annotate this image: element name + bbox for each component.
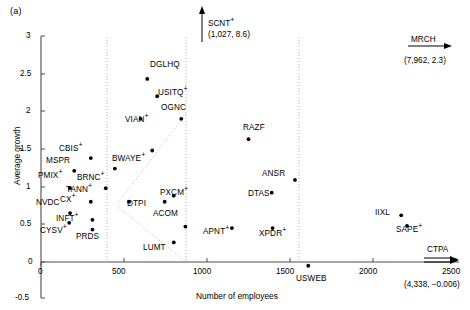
xticklabel-2000: 2000 (359, 268, 377, 276)
data-point-brnc (113, 167, 117, 171)
scnt-arrow-head (199, 6, 205, 14)
yticklabel-1: 1 (26, 183, 31, 191)
point-label-text: CX (60, 195, 72, 204)
point-label-text: INFT (56, 214, 75, 223)
plus-icon: + (225, 224, 229, 231)
xticklabel-500: 500 (112, 268, 126, 276)
point-label-dtpi: DTPI (127, 200, 146, 208)
y-axis (41, 36, 45, 298)
point-label-razf: RAZF (243, 124, 265, 132)
annotation-ctpa-label: CTPA (427, 245, 448, 254)
point-label-apnt: APNT+ (203, 228, 229, 236)
ctpa-arrow-head (450, 256, 459, 264)
mrch-arrow-head (444, 43, 452, 49)
annotation-scnt-plus-icon: + (230, 16, 234, 23)
x-axis-title: Number of employees (196, 291, 278, 301)
data-point-iixl (399, 213, 403, 217)
point-label-nvdc: NVDC (36, 199, 60, 207)
data-point-apnt (230, 226, 234, 230)
data-point-ansr (293, 178, 297, 182)
yticklabel-3: 3 (26, 32, 31, 40)
point-label-text: APNT (203, 227, 225, 236)
plus-icon: + (79, 141, 83, 148)
data-point-acom (184, 225, 188, 229)
data-point-inft (91, 218, 95, 222)
annotation-mrch-coords: (7,962, 2.3) (404, 56, 446, 65)
point-label-text: PXCM (160, 188, 184, 197)
data-point-razf (247, 137, 251, 141)
plus-icon: + (88, 182, 92, 189)
plus-icon: + (63, 223, 67, 230)
data-point-dtpi (163, 200, 167, 204)
point-label-text: OGNC (161, 103, 186, 112)
point-label-ansr: ANSR (262, 170, 285, 178)
point-label-text: TANN (66, 185, 88, 194)
point-label-prds: PRDS (76, 233, 99, 241)
annotation-ctpa-coords-box: (4,338, −0.006) (404, 279, 460, 290)
point-label-text: USWEB (296, 274, 327, 283)
point-label-dglhq: DGLHQ (150, 61, 180, 69)
plus-icon: + (145, 112, 149, 119)
point-label-text: NVDC (36, 198, 60, 207)
data-point-bwaye (150, 149, 154, 153)
point-label-text: BWAYE (112, 154, 141, 163)
annotation-scnt: SCNT+ (1,027, 8.6) (208, 18, 250, 40)
point-label-cbis: CBIS+ (59, 145, 83, 153)
point-label-text: DGLHQ (150, 60, 180, 69)
xticklabel-1000: 1000 (193, 268, 211, 276)
data-point-dtas (270, 191, 274, 195)
point-label-text: BRNC (77, 173, 101, 182)
annotation-ctpa: CTPA (427, 244, 448, 255)
point-label-text: DTAS (248, 189, 270, 198)
plus-icon: + (184, 85, 188, 92)
data-point-mspr (72, 169, 76, 173)
point-label-text: CYSV (40, 226, 63, 235)
scatter-plot-canvas (0, 0, 470, 310)
x-axis (41, 258, 459, 266)
annotation-scnt-label: SCNT (208, 19, 230, 28)
data-point-tann (104, 186, 108, 190)
data-point-cx (89, 200, 93, 204)
point-label-text: USITQ (158, 88, 184, 97)
point-label-text: LUMT (143, 243, 166, 252)
point-label-text: PMIX (38, 171, 58, 180)
point-label-text: MSPR (46, 156, 70, 165)
point-label-sape: SAPE+ (396, 226, 422, 234)
plus-icon: + (101, 170, 105, 177)
point-label-dtas: DTAS (248, 190, 270, 198)
point-label-text: IIXL (375, 208, 390, 217)
point-label-pmix: PMIX+ (38, 172, 63, 180)
point-label-text: DTPI (127, 199, 146, 208)
annotation-mrch-label: MRCH (411, 35, 436, 44)
annotation-scnt-coords: (1,027, 8.6) (208, 30, 250, 39)
data-point-ognc (179, 117, 183, 121)
point-label-usitq: USITQ+ (158, 89, 188, 97)
point-label-tann: TANN+ (66, 186, 92, 194)
data-point-cbis (89, 156, 93, 160)
yticklabel-0.5: 0.5 (20, 220, 31, 228)
annotation-mrch: MRCH (411, 34, 436, 45)
point-label-pxcm: PXCM+ (160, 189, 188, 197)
point-label-cx: CX+ (60, 196, 76, 204)
data-point-prds (91, 228, 95, 232)
point-label-text: VIAN (125, 115, 145, 124)
plus-icon: + (141, 151, 145, 158)
point-label-lumt: LUMT (143, 244, 166, 252)
xticklabel-0: 0 (38, 268, 43, 276)
yticklabel-2: 2 (26, 107, 31, 115)
point-label-text: ACOM (153, 209, 178, 218)
plus-icon: + (184, 185, 188, 192)
point-label-vian: VIAN+ (125, 116, 149, 124)
point-label-brnc: BRNC+ (77, 174, 105, 182)
data-point-markers (67, 77, 409, 268)
point-label-text: SAPE (396, 225, 418, 234)
plus-icon: + (418, 222, 422, 229)
point-label-bwaye: BWAYE+ (112, 155, 145, 163)
data-point-lumt (172, 241, 176, 245)
plus-icon: + (75, 211, 79, 218)
point-label-usweb: USWEB (296, 275, 327, 283)
plus-icon: + (72, 192, 76, 199)
annotation-ctpa-coords: (4,338, −0.006) (404, 280, 460, 289)
point-label-ognc: OGNC (161, 104, 186, 112)
xticklabel-2500: 2500 (442, 268, 460, 276)
